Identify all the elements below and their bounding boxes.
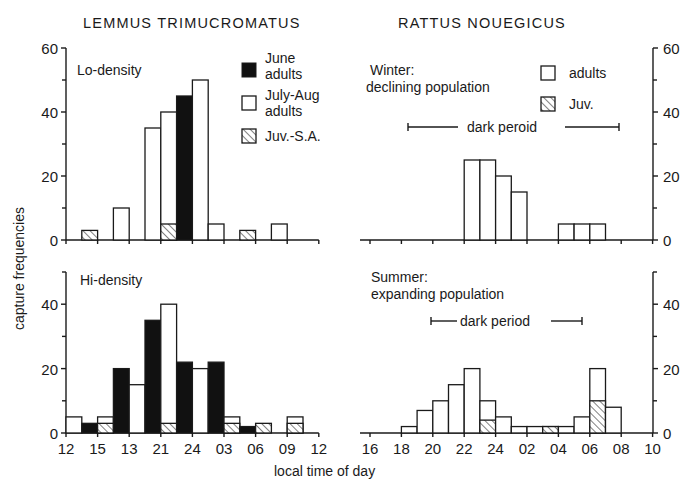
bar-june-adults [82,423,98,433]
bar-adults-white [417,410,433,433]
x-tick-label: 06 [247,440,264,457]
bar-adults-white [511,192,527,240]
bar-june-adults [145,320,161,433]
bar-adults-white [464,369,480,433]
legend-julyaug-line1: July-Aug [265,87,319,103]
bar-juveniles [161,224,177,240]
bar-juveniles [543,427,559,433]
bar-june-adults [177,362,193,433]
y-tick-label: 0 [663,232,671,249]
bar-adults-white [161,112,177,240]
legend-swatch-juv-right [541,97,555,111]
x-tick-label: 24 [487,440,504,457]
bar-adults-white [496,417,512,433]
x-tick-label: 22 [456,440,473,457]
y-tick-label: 40 [41,296,58,313]
x-tick-label: 18 [393,440,410,457]
legend-right: adults Juv. [541,65,606,112]
x-tick-label: 03 [216,440,233,457]
bar-adults-white [113,208,129,240]
legend-juv-right-label: Juv. [569,96,594,112]
winter-label-line2: declining population [366,79,490,95]
x-tick-label: 12 [58,440,75,457]
bar-adults-white [192,369,208,433]
legend-swatch-adults [541,66,555,80]
legend-adults-label: adults [569,65,606,81]
bar-adults-white [401,427,417,433]
y-tick-label: 0 [663,425,671,442]
y-tick-label: 20 [41,168,58,185]
bar-adults-white [464,160,480,240]
y-tick-label: 40 [663,104,680,121]
bar-adults-white [558,224,574,240]
bar-adults-white [161,304,177,433]
dark-period-winter-label: dark peroid [467,119,537,135]
winter-label-line1: Winter: [370,62,414,78]
bar-adults-white [496,176,512,240]
x-tick-label: 20 [424,440,441,457]
x-tick-label: 08 [613,440,630,457]
bar-juveniles [240,230,256,240]
hi-density-label: Hi-density [80,272,142,288]
bar-adults-white [590,224,606,240]
x-tick-label: 24 [184,440,201,457]
legend-julyaug-line2: adults [265,103,302,119]
x-tick-label: 15 [89,440,106,457]
y-tick-label: 60 [41,40,58,57]
y-tick-label: 40 [41,104,58,121]
bar-adults-white [574,417,590,433]
legend-juv-label: Juv.-S.A. [265,128,321,144]
bar-adults-white [558,427,574,433]
bar-adults-white [271,224,287,240]
bar-adults-white [606,407,622,433]
y-tick-label: 0 [50,425,58,442]
dark-period-summer-label: dark period [460,313,530,329]
bar-juveniles [98,423,114,433]
bar-adults-white [145,128,161,240]
y-axis-label: capture frequencies [11,207,27,330]
bar-adults-white [129,385,145,433]
summer-label-line1: Summer: [371,269,428,285]
bar-juveniles [590,401,606,433]
bar-june-adults [240,427,256,433]
bar-juveniles [161,423,177,433]
lo-density-label: Lo-density [77,62,142,78]
legend-june-line1: June [265,50,296,66]
legend-swatch-june [242,63,256,77]
bar-june-adults [177,96,193,240]
bar-juveniles [287,423,303,433]
legend-swatch-julyaug [242,96,256,110]
bar-adults-white [208,224,224,240]
x-tick-label: 12 [310,440,327,457]
legend-swatch-juv [242,129,256,143]
bar-adults-white [480,160,496,240]
legend-left: June adults July-Aug adults Juv.-S.A. [242,50,321,144]
x-tick-label: 16 [362,440,379,457]
x-tick-label: 04 [550,440,567,457]
dark-period-winter: dark peroid [408,119,619,135]
x-axis-label: local time of day [274,463,375,479]
bar-adults-white [66,417,82,433]
y-tick-label: 20 [663,168,680,185]
x-tick-label: 06 [581,440,598,457]
legend-june-line2: adults [265,66,302,82]
bar-adults-white [574,224,590,240]
species-title-left: LEMMUS TRIMUCROMATUS [83,15,301,31]
bar-juveniles [256,423,272,433]
bar-june-adults [113,369,129,433]
x-tick-label: 13 [121,440,138,457]
y-tick-label: 20 [41,361,58,378]
x-tick-label: 02 [519,440,536,457]
bar-june-adults [208,362,224,433]
y-tick-label: 60 [663,40,680,57]
species-title-right: RATTUS NOUEGICUS [398,15,566,31]
summer-label-line2: expanding population [371,286,504,302]
panel-lemmus-hi: 12151321240306091202040 [41,272,327,457]
y-tick-label: 0 [50,232,58,249]
bar-adults-white [433,401,449,433]
bar-adults-white [511,427,527,433]
bar-juveniles [224,423,240,433]
dark-period-summer: dark period [431,313,582,329]
activity-histogram-figure: LEMMUS TRIMUCROMATUS RATTUS NOUEGICUS ca… [0,0,694,493]
bar-adults-white [192,80,208,240]
